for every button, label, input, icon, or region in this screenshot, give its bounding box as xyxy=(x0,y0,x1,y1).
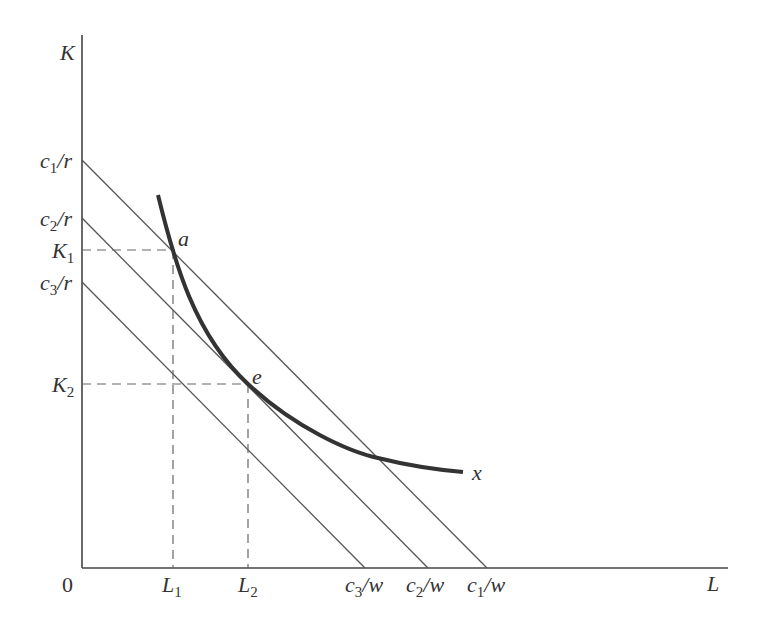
l1-label: L1 xyxy=(161,572,182,600)
point-a-label: a xyxy=(178,226,189,251)
isocost-isoquant-diagram: K L 0 c1/r c2/r c3/r K1 K2 L1 L2 c3/w c2… xyxy=(0,0,772,641)
origin-label: 0 xyxy=(62,572,73,597)
c3-r-label: c3/r xyxy=(40,270,72,298)
isocost-line-c3 xyxy=(82,282,365,568)
point-e-label: e xyxy=(252,364,262,389)
k-axis-label: K xyxy=(59,40,76,65)
isocost-line-c1 xyxy=(82,160,487,568)
k2-label: K2 xyxy=(51,372,74,400)
isoquant-x-label: x xyxy=(471,460,482,485)
c2-w-label: c2/w xyxy=(406,572,444,600)
k1-label: K1 xyxy=(51,238,74,266)
c1-r-label: c1/r xyxy=(40,148,72,176)
isoquant-curve xyxy=(158,195,463,472)
c1-w-label: c1/w xyxy=(467,572,505,600)
c2-r-label: c2/r xyxy=(40,206,72,234)
l-axis-label: L xyxy=(706,571,719,596)
c3-w-label: c3/w xyxy=(345,572,383,600)
l2-label: L2 xyxy=(237,572,258,600)
